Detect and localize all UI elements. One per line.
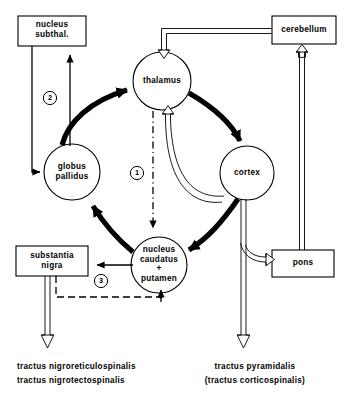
- box-substantia-nigra: [16, 246, 88, 276]
- edge-cortex-tractus-pyramidalis: [237, 199, 250, 348]
- edge-caudatus-to-globus-pallidus: [93, 206, 133, 252]
- tract-label-nigrotectospinalis: tractus nigrotectospinalis: [17, 375, 125, 387]
- edge-subthal-to-globus-pallidus: [32, 46, 40, 172]
- edge-pons-to-cerebellum: [296, 45, 308, 251]
- marker-label-one: 1: [130, 166, 144, 180]
- edge-cerebellum-to-thalamus: [158, 29, 272, 59]
- tract-label-corticospinalis: (tractus corticospinalis): [175, 375, 335, 387]
- circle-cortex: [220, 146, 274, 200]
- box-pons: [272, 250, 334, 277]
- box-cerebellum: [272, 16, 336, 44]
- neuroanatomy-diagram: nucleus subthal. cerebellum thalamus glo…: [0, 0, 349, 409]
- tract-label-pyramidalis: tractus pyramidalis: [175, 361, 335, 373]
- circle-thalamus: [133, 52, 191, 110]
- edge-cortex-to-caudatus: [189, 199, 238, 250]
- edge-thalamus-to-cortex: [189, 93, 240, 141]
- diagram-graphics: [0, 0, 349, 409]
- circle-globus-pallidus: [44, 144, 100, 200]
- box-nucleus-subthal: [18, 16, 86, 46]
- edge-globus-pallidus-to-thalamus: [62, 90, 127, 145]
- circle-nucleus-caudatus-putamen: [131, 237, 187, 293]
- marker-label-two: 2: [43, 91, 57, 105]
- edge-cortex-to-thalamus: [162, 106, 224, 203]
- marker-label-three: 3: [94, 274, 108, 288]
- tract-label-nigroreticulospinalis: tractus nigroreticulospinalis: [17, 361, 136, 373]
- edge-substantia-nigra-descending: [41, 276, 54, 348]
